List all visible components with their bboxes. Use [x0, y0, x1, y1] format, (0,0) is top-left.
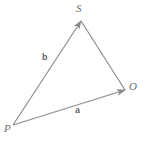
- point-label-s: S: [76, 3, 82, 14]
- triangle-diagram-canvas: [0, 0, 145, 143]
- vector-label-a: a: [75, 106, 80, 115]
- triangle-edges: [13, 21, 125, 125]
- point-label-o: O: [129, 81, 137, 92]
- point-label-p: P: [4, 123, 11, 134]
- vector-a-line-P-to-O: [13, 90, 125, 125]
- vector-label-b: b: [42, 53, 48, 62]
- vector-triangle-figure: S O P a b: [0, 0, 145, 143]
- segment-line-S-to-O: [81, 21, 125, 90]
- vector-b-line-P-to-S: [13, 21, 81, 125]
